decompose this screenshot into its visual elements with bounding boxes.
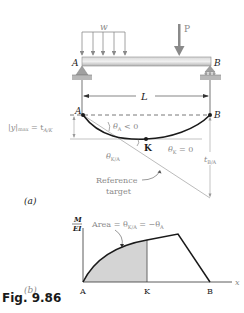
x-tick-b: B — [207, 287, 213, 296]
beam-diagram: w P A B — [71, 22, 221, 115]
point-load: P — [174, 24, 190, 56]
moment-diagram: M EI x Area = θK/A = −θA A K B (b) — [24, 215, 240, 296]
span-dimension: L — [83, 91, 209, 102]
roller-support-b — [200, 66, 221, 80]
deflection-diagram: A B K |y|max = tA/K θA < 0 θK = 0 θK/A t… — [8, 106, 221, 206]
theta-k-label: θK = 0 — [168, 145, 193, 155]
x-axis-label: x — [235, 278, 240, 287]
beam — [82, 57, 211, 66]
point-k — [144, 137, 148, 141]
reference-label-line2: target — [106, 187, 132, 196]
deflection-label-b: B — [213, 110, 221, 120]
deflection-label-k: K — [144, 143, 153, 153]
span-label: L — [140, 91, 148, 102]
beam-label-a: A — [71, 58, 79, 68]
deflection-label-a: A — [74, 106, 82, 116]
load-p-label: P — [184, 24, 190, 34]
y-axis-numerator: M — [73, 215, 82, 224]
point-b — [208, 113, 212, 117]
x-tick-k: K — [144, 287, 151, 296]
ymax-label: |y|max = tA/K — [8, 123, 53, 133]
shaded-area — [83, 240, 147, 282]
beam-label-b: B — [213, 58, 221, 68]
theta-ka-label: θK/A — [106, 152, 120, 162]
x-tick-a: A — [79, 287, 86, 296]
part-a-label: (a) — [24, 196, 37, 206]
y-axis-denominator: EI — [72, 224, 82, 233]
load-w-label: w — [100, 22, 108, 32]
figure-caption: Fig. 9.86 — [2, 291, 61, 305]
figure-canvas: w P A B — [0, 0, 244, 313]
distributed-load: w — [82, 22, 125, 55]
pin-support-a — [72, 66, 92, 80]
theta-a-label: θA < 0 — [113, 122, 138, 132]
point-a — [81, 113, 85, 117]
area-label: Area = θK/A = −θA — [91, 220, 164, 230]
reference-label-line1: Reference — [96, 176, 138, 185]
